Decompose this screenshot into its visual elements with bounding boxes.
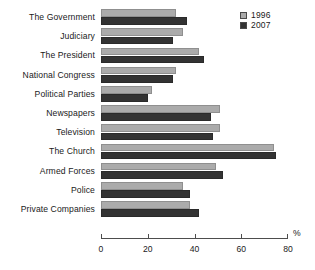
x-axis-unit-label: %: [293, 228, 301, 238]
category-label-the-church: The Church: [0, 142, 95, 161]
bar-row: Armed Forces: [0, 162, 315, 181]
x-axis-tick-label: 0: [89, 244, 113, 254]
bar-1996-private-companies: [101, 201, 190, 209]
bar-group-the-government: [101, 8, 301, 27]
bar-1996-newspapers: [101, 105, 220, 113]
bar-2007-armed-forces: [101, 171, 223, 179]
bar-group-the-president: [101, 46, 301, 65]
bar-1996-political-parties: [101, 86, 152, 94]
bar-2007-the-president: [101, 56, 204, 64]
bar-group-newspapers: [101, 104, 301, 123]
x-axis: [101, 238, 288, 239]
x-axis-tick: [287, 234, 288, 239]
bar-1996-the-government: [101, 9, 176, 17]
bar-group-police: [101, 181, 301, 200]
category-label-newspapers: Newspapers: [0, 104, 95, 123]
bar-1996-the-church: [101, 144, 274, 152]
plot-area: The Government Judiciary The President N…: [0, 8, 315, 230]
bar-2007-private-companies: [101, 209, 199, 217]
bar-1996-judiciary: [101, 28, 183, 36]
bar-2007-police: [101, 190, 190, 198]
bar-group-national-congress: [101, 66, 301, 85]
bar-1996-television: [101, 124, 220, 132]
bar-1996-national-congress: [101, 67, 176, 75]
category-label-national-congress: National Congress: [0, 66, 95, 85]
category-label-judiciary: Judiciary: [0, 27, 95, 46]
bar-group-private-companies: [101, 200, 301, 219]
bar-row: The Church: [0, 142, 315, 161]
bar-1996-armed-forces: [101, 163, 216, 171]
bar-2007-newspapers: [101, 113, 211, 121]
bar-row: Private Companies: [0, 200, 315, 219]
x-axis-tick-label: 80: [276, 244, 300, 254]
bar-2007-the-government: [101, 17, 187, 25]
bar-row: The Government: [0, 8, 315, 27]
category-label-television: Television: [0, 123, 95, 142]
category-label-political-parties: Political Parties: [0, 85, 95, 104]
bar-group-armed-forces: [101, 162, 301, 181]
bar-2007-judiciary: [101, 37, 173, 45]
bar-1996-the-president: [101, 48, 199, 56]
x-axis-tick: [148, 234, 149, 239]
x-axis-tick-label: 20: [136, 244, 160, 254]
category-label-the-president: The President: [0, 46, 95, 65]
x-axis-tick: [195, 234, 196, 239]
bar-row: Political Parties: [0, 85, 315, 104]
x-axis-tick: [101, 234, 102, 239]
category-label-private-companies: Private Companies: [0, 200, 95, 219]
bar-row: The President: [0, 46, 315, 65]
bar-row: National Congress: [0, 66, 315, 85]
category-label-the-government: The Government: [0, 8, 95, 27]
x-axis-tick: [241, 234, 242, 239]
bar-group-judiciary: [101, 27, 301, 46]
bar-group-television: [101, 123, 301, 142]
x-axis-tick-label: 60: [229, 244, 253, 254]
bar-2007-national-congress: [101, 75, 173, 83]
bar-group-the-church: [101, 142, 301, 161]
x-axis-tick-label: 40: [183, 244, 207, 254]
bar-2007-the-church: [101, 152, 276, 160]
category-label-police: Police: [0, 181, 95, 200]
bar-row: Judiciary: [0, 27, 315, 46]
bar-2007-political-parties: [101, 94, 148, 102]
bar-row: Police: [0, 181, 315, 200]
bar-chart: 1996 2007 The Government Judiciary The P…: [0, 0, 315, 270]
category-label-armed-forces: Armed Forces: [0, 162, 95, 181]
bar-1996-police: [101, 182, 183, 190]
bar-row: Newspapers: [0, 104, 315, 123]
bar-2007-television: [101, 133, 213, 141]
bar-row: Television: [0, 123, 315, 142]
bar-group-political-parties: [101, 85, 301, 104]
